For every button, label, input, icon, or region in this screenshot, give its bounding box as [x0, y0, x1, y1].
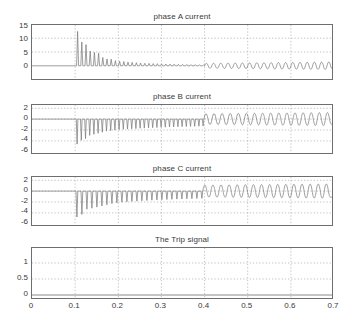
ytick-label: -2 — [21, 125, 28, 133]
ytick-label: 5 — [24, 49, 28, 57]
gridlines-trip-signal — [32, 248, 333, 299]
ytick-label: 0.5 — [17, 274, 28, 282]
xtick-label: 0.6 — [284, 302, 295, 310]
panel-title-trip-signal: The Trip signal — [31, 235, 333, 244]
xtick-label: 0 — [29, 302, 33, 310]
ytick-label: 2 — [24, 104, 28, 112]
waveform-phase-a — [32, 32, 333, 70]
ytick-label: 0 — [24, 290, 28, 298]
panel-title-phase-a: phase A current — [31, 12, 333, 21]
plot-svg-phase-c — [32, 177, 333, 226]
waveform-phase-c — [32, 184, 333, 217]
ytick-label: 0 — [24, 186, 28, 194]
matlab-figure-canvas: phase A current 15 10 5 0 — [0, 0, 353, 321]
plot-svg-trip-signal — [32, 248, 333, 299]
ytick-label: -2 — [21, 197, 28, 205]
waveform-phase-b — [32, 113, 333, 145]
ytick-label: 0 — [24, 62, 28, 70]
panel-phase-a: phase A current 15 10 5 0 — [0, 0, 353, 90]
ytick-label: -4 — [21, 135, 28, 143]
ytick-label: 10 — [19, 35, 28, 43]
ytick-label: -6 — [21, 218, 28, 226]
ytick-label: 15 — [19, 22, 28, 30]
ytick-label: 1 — [24, 258, 28, 266]
panel-title-phase-c: phase C current — [31, 164, 333, 173]
ytick-label: -6 — [21, 146, 28, 154]
yaxis-ticks-phase-c: 2 0 -2 -4 -6 — [0, 162, 28, 234]
ytick-label: 2 — [24, 176, 28, 184]
plot-area-phase-c — [31, 176, 333, 226]
xtick-label: 0.7 — [327, 302, 338, 310]
xtick-label: 0.5 — [241, 302, 252, 310]
yaxis-ticks-phase-b: 2 0 -2 -4 -6 — [0, 90, 28, 162]
xtick-label: 0.3 — [155, 302, 166, 310]
panel-trip-signal: The Trip signal 1 0.5 0 — [0, 234, 353, 321]
panel-phase-b: phase B current 2 0 -2 -4 -6 — [0, 90, 353, 162]
xaxis-tick-labels: 0 0.1 0.2 0.3 0.4 0.5 0.6 0.7 — [0, 302, 353, 314]
xtick-label: 0.1 — [69, 302, 80, 310]
plot-area-phase-b — [31, 104, 333, 154]
plot-area-trip-signal — [31, 247, 333, 299]
panel-title-phase-b: phase B current — [31, 92, 333, 101]
xtick-label: 0.2 — [112, 302, 123, 310]
ytick-label: 0 — [24, 114, 28, 122]
plot-svg-phase-b — [32, 105, 333, 154]
yaxis-ticks-phase-a: 15 10 5 0 — [0, 0, 28, 90]
plot-svg-phase-a — [32, 25, 333, 80]
plot-area-phase-a — [31, 24, 333, 80]
gridlines-phase-b — [32, 105, 333, 154]
ytick-label: -4 — [21, 207, 28, 215]
xtick-label: 0.4 — [198, 302, 209, 310]
panel-phase-c: phase C current 2 0 -2 -4 -6 — [0, 162, 353, 234]
